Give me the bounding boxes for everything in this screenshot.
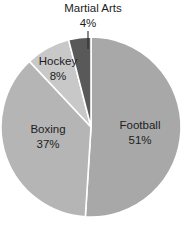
slice-label-boxing-value: 37% xyxy=(36,138,59,150)
pie-chart-svg: Football 51% Boxing 37% Hockey 8% Martia… xyxy=(0,0,185,230)
slice-label-martial-arts-name: Martial Arts xyxy=(64,2,122,14)
pie-chart-figure: Football 51% Boxing 37% Hockey 8% Martia… xyxy=(0,0,185,230)
slice-label-football-value: 51% xyxy=(128,134,151,146)
slice-label-hockey-value: 8% xyxy=(50,70,67,82)
slice-label-hockey-name: Hockey xyxy=(39,55,78,67)
slice-label-football-name: Football xyxy=(120,119,161,131)
slice-label-martial-arts-value: 4% xyxy=(80,17,97,29)
slice-label-boxing-name: Boxing xyxy=(30,123,65,135)
